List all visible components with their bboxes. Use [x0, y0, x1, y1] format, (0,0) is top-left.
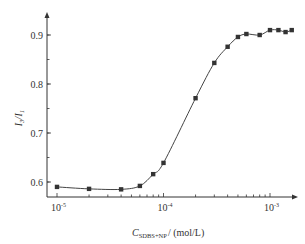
square-marker-icon	[225, 45, 229, 49]
chart: 10-510-410-3 0.60.70.80.9 I3/I1 CSDBS+NP…	[0, 0, 305, 244]
square-marker-icon	[151, 172, 155, 176]
y-tick-label: 0.6	[31, 177, 44, 188]
x-axis-arrow-icon	[292, 195, 298, 200]
y-tick-label: 0.9	[31, 30, 44, 41]
axes	[45, 12, 299, 200]
square-marker-icon	[87, 187, 91, 191]
x-tick-label: 10-3	[264, 202, 279, 213]
square-marker-icon	[236, 35, 240, 39]
square-marker-icon	[244, 32, 248, 36]
square-marker-icon	[161, 161, 165, 165]
y-tick-label: 0.8	[31, 79, 44, 90]
square-marker-icon	[283, 30, 287, 34]
square-marker-icon	[212, 61, 216, 65]
square-marker-icon	[268, 28, 272, 32]
square-marker-icon	[55, 185, 59, 189]
data-markers	[55, 28, 294, 192]
data-series-line	[57, 30, 292, 190]
square-marker-icon	[119, 187, 123, 191]
square-marker-icon	[193, 96, 197, 100]
x-tick-label: 10-5	[51, 202, 66, 213]
x-axis-title: CSDBS+NP/ (mol/L)	[132, 227, 204, 239]
square-marker-icon	[276, 28, 280, 32]
y-axis-title: I3/I1	[13, 110, 26, 127]
y-axis-ticks: 0.60.70.80.9	[31, 30, 52, 188]
x-tick-label: 10-4	[158, 202, 173, 213]
square-marker-icon	[138, 184, 142, 188]
square-marker-icon	[290, 28, 294, 32]
square-marker-icon	[257, 33, 261, 37]
y-axis-arrow-icon	[45, 12, 50, 18]
y-tick-label: 0.7	[31, 128, 44, 139]
x-axis-ticks: 10-510-410-3	[51, 193, 279, 213]
